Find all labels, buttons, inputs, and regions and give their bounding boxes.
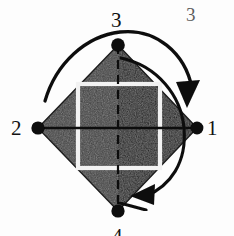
vertex-label-1: 1 [207,118,218,139]
figure-container: 1 2 3 4 3 [0,0,234,236]
vertex-dot-left [31,121,44,134]
vertex-label-4: 4 [112,226,123,236]
rotation-diagram [0,0,234,236]
vertex-dot-bottom [111,204,124,217]
vertex-label-3: 3 [111,10,122,31]
vertex-dot-right [191,122,204,135]
vertex-dot-top [111,38,125,52]
vertex-label-2: 2 [11,118,22,139]
figure-caption-number: 3 [186,5,196,24]
